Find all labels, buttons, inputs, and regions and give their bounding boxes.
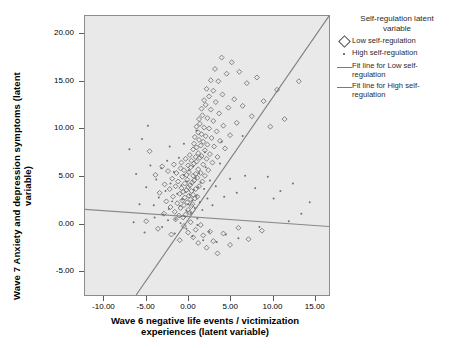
data-point-low bbox=[296, 79, 301, 84]
data-point-low bbox=[215, 154, 220, 159]
data-point-low bbox=[205, 142, 210, 147]
data-point-high bbox=[166, 160, 168, 162]
data-point-high bbox=[173, 171, 175, 173]
data-point-high bbox=[190, 212, 192, 214]
legend-item-label: Low self-regulation bbox=[352, 36, 456, 45]
data-point-high bbox=[244, 175, 246, 177]
dot-icon bbox=[343, 53, 345, 55]
data-point-low bbox=[183, 156, 188, 161]
data-point-low bbox=[282, 117, 287, 122]
data-point-low bbox=[167, 187, 172, 192]
data-point-low bbox=[221, 123, 226, 128]
data-point-high bbox=[183, 143, 185, 145]
data-point-low bbox=[219, 55, 224, 60]
data-point-low bbox=[208, 107, 213, 112]
line-icon bbox=[337, 67, 352, 68]
data-point-high bbox=[169, 146, 171, 148]
y-axis-tick-mark bbox=[79, 224, 84, 225]
data-point-low bbox=[206, 168, 211, 173]
diamond-icon bbox=[338, 35, 351, 48]
data-point-low bbox=[204, 156, 209, 161]
y-axis-tick-label: 15.00 bbox=[32, 77, 74, 85]
data-point-low bbox=[207, 126, 212, 131]
data-point-high bbox=[211, 204, 213, 206]
data-point-high bbox=[174, 233, 176, 235]
data-point-low bbox=[166, 169, 171, 174]
data-point-high bbox=[196, 129, 198, 131]
data-point-high bbox=[193, 189, 195, 191]
data-point-low bbox=[207, 152, 212, 157]
legend-item: Fit line for High self- regulation bbox=[336, 81, 456, 99]
legend-diamond-icon bbox=[336, 36, 352, 47]
data-point-low bbox=[202, 173, 207, 178]
legend-dot-icon bbox=[336, 49, 352, 60]
data-point-high bbox=[273, 198, 275, 200]
data-point-high bbox=[292, 182, 294, 184]
data-point-low bbox=[204, 245, 209, 250]
data-point-high bbox=[195, 177, 197, 179]
data-point-low bbox=[155, 226, 160, 231]
data-point-low bbox=[249, 114, 254, 119]
legend-line-icon bbox=[336, 81, 352, 94]
data-point-low bbox=[228, 133, 233, 138]
data-point-low bbox=[174, 171, 179, 176]
y-axis-tick-label: 5.00 bbox=[32, 172, 74, 180]
data-point-low bbox=[196, 241, 201, 246]
data-point-high bbox=[170, 182, 172, 184]
data-point-high bbox=[225, 233, 227, 235]
data-point-high bbox=[191, 199, 193, 201]
data-point-high bbox=[185, 210, 187, 212]
data-point-low bbox=[199, 106, 204, 111]
data-point-high bbox=[139, 203, 141, 205]
data-point-high bbox=[208, 231, 210, 233]
plot-canvas bbox=[85, 16, 329, 295]
scatter-plot-figure: Wave 7 Anxiety and depression symptoms (… bbox=[0, 0, 458, 348]
data-point-high bbox=[149, 164, 151, 166]
data-point-low bbox=[237, 69, 242, 74]
data-point-high bbox=[167, 219, 169, 221]
data-point-high bbox=[300, 213, 302, 215]
data-point-high bbox=[198, 172, 200, 174]
y-axis-tick-mark bbox=[79, 176, 84, 177]
x-axis-tick-label: 5.00 bbox=[208, 303, 252, 311]
data-point-high bbox=[258, 226, 260, 228]
x-axis-tick-mark bbox=[315, 296, 316, 301]
series-low-self-regulation bbox=[144, 55, 302, 256]
x-axis-tick-label: -5.00 bbox=[124, 303, 168, 311]
data-point-high bbox=[171, 200, 173, 202]
line-icon bbox=[337, 87, 352, 88]
data-point-high bbox=[187, 203, 189, 205]
data-point-high bbox=[189, 194, 191, 196]
data-point-high bbox=[196, 195, 198, 197]
data-point-low bbox=[207, 94, 212, 99]
legend-item-label: High self-regulation bbox=[352, 49, 456, 58]
data-point-high bbox=[229, 178, 231, 180]
data-point-high bbox=[160, 167, 162, 169]
data-point-high bbox=[236, 192, 238, 194]
fit-lines-group bbox=[85, 16, 329, 295]
data-point-low bbox=[217, 111, 222, 116]
data-point-low bbox=[254, 75, 259, 80]
data-point-high bbox=[179, 205, 181, 207]
data-point-low bbox=[224, 71, 229, 76]
data-point-high bbox=[145, 186, 147, 188]
data-point-high bbox=[158, 197, 160, 199]
data-point-low bbox=[192, 135, 197, 140]
data-point-low bbox=[261, 99, 266, 104]
data-point-high bbox=[309, 201, 311, 203]
data-point-high bbox=[219, 163, 221, 165]
data-point-low bbox=[228, 242, 233, 247]
data-point-low bbox=[171, 162, 176, 167]
x-axis-tick-label: 15.00 bbox=[293, 303, 337, 311]
data-point-low bbox=[211, 88, 216, 93]
legend-item: Fit line for Low self- regulation bbox=[336, 61, 456, 79]
data-point-high bbox=[199, 201, 201, 203]
data-point-low bbox=[212, 144, 217, 149]
data-point-low bbox=[204, 86, 209, 91]
data-point-low bbox=[178, 166, 183, 171]
data-point-low bbox=[244, 81, 249, 86]
data-point-high bbox=[175, 218, 177, 220]
data-point-low bbox=[220, 92, 225, 97]
data-point-high bbox=[128, 148, 130, 150]
data-point-low bbox=[226, 105, 231, 110]
